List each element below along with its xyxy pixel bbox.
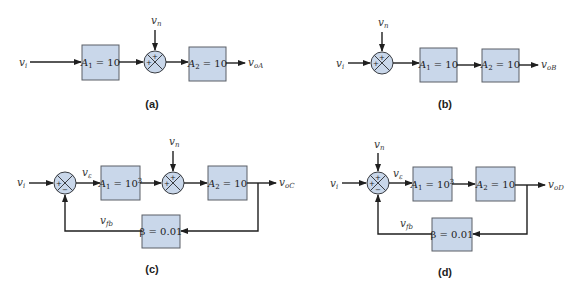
diagram-c: vi + − vε A1 = 103 vn + + A2 = 10 voC β <box>17 135 295 275</box>
output-label-c: voC <box>279 176 295 190</box>
block-beta-label-d: β = 0.01 <box>431 229 474 240</box>
svg-text:−: − <box>375 186 381 194</box>
svg-text:−: − <box>62 186 68 194</box>
feedback-label-c: vfb <box>100 214 114 228</box>
svg-text:+: + <box>379 54 385 62</box>
feedback-label-d: vfb <box>400 217 414 231</box>
caption-c: (c) <box>145 263 159 275</box>
svg-text:+: + <box>152 53 158 61</box>
noise-label-c: vn <box>169 135 180 149</box>
svg-text:+: + <box>146 59 152 67</box>
input-label-a: vi <box>19 56 27 70</box>
caption-d: (d) <box>438 266 452 278</box>
block-beta-label-c: β = 0.01 <box>140 226 183 237</box>
svg-text:+: + <box>373 60 379 68</box>
error-label-d: vε <box>393 167 403 181</box>
summing-junction-noise-c: + + <box>162 172 184 194</box>
diagram-a: vi A1 = 10 vn + + A2 = 10 voA (a) <box>19 14 263 110</box>
output-label-d: voD <box>548 178 564 192</box>
svg-text:+: + <box>164 180 170 188</box>
noise-label-d: vn <box>374 138 385 152</box>
summing-junction-d: + + − <box>367 172 389 194</box>
diagram-b: vi vn + + A1 = 10 A2 = 10 voB (b) <box>336 16 556 110</box>
input-label-d: vi <box>330 177 338 191</box>
svg-text:+: + <box>170 174 176 182</box>
block-diagrams: vi A1 = 10 vn + + A2 = 10 voA (a) vi vn … <box>0 0 577 285</box>
noise-label-b: vn <box>378 16 389 30</box>
caption-b: (b) <box>438 98 452 110</box>
block-a1-label-c: A1 = 103 <box>98 177 143 191</box>
svg-text:+: + <box>375 174 381 182</box>
input-label-b: vi <box>336 57 344 71</box>
block-a1-label-d: A1 = 103 <box>410 178 455 192</box>
caption-a: (a) <box>145 98 159 110</box>
output-label-a: voA <box>248 56 263 70</box>
diagram-d: vi vn + + − vε A1 = 103 A2 = 10 voD β = … <box>330 138 564 278</box>
input-label-c: vi <box>17 176 25 190</box>
summing-junction-a: + + <box>144 51 166 73</box>
summing-junction-error-c: + − <box>54 172 76 194</box>
output-label-b: voB <box>541 58 556 72</box>
summing-junction-b: + + <box>371 52 393 74</box>
error-label-c: vε <box>82 166 92 180</box>
noise-label-a: vn <box>151 14 162 28</box>
